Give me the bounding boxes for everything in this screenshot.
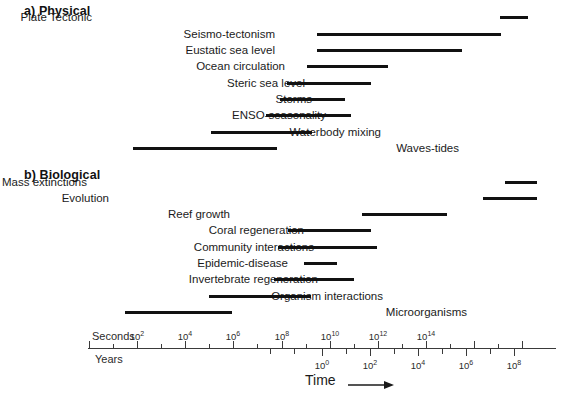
axis-tick-years [270, 349, 271, 354]
axis-tick-seconds [498, 344, 499, 349]
axis-tick-years [490, 349, 491, 354]
axis-tick-seconds [450, 344, 451, 349]
axis-tick-label-seconds: 1012 [369, 328, 387, 342]
axis-tick-seconds [113, 344, 114, 349]
axis-tick-label-years: 104 [411, 357, 425, 371]
axis-tick-years [294, 349, 295, 354]
axis-tick-label-years: 100 [315, 357, 329, 371]
axis-tick-seconds [354, 344, 355, 349]
axis-tick-label-seconds: 106 [226, 328, 240, 342]
axis-tick-years [370, 349, 371, 356]
axis-tick-seconds [522, 341, 523, 348]
axis-tick-years [514, 349, 515, 356]
right-arrow-icon [348, 376, 394, 386]
timescales-figure: a) Physical b) Biological Plate Tectonic… [0, 0, 581, 397]
axis-tick-label-years: 108 [507, 357, 521, 371]
axis-tick-seconds [402, 344, 403, 349]
axis-tick-seconds [306, 344, 307, 349]
axis-tick-seconds [209, 344, 210, 349]
time-axis: 102104106108101010121014100102104106108S… [0, 0, 581, 397]
axis-tick-label-seconds: 108 [275, 328, 289, 342]
axis-tick-seconds [474, 341, 475, 348]
axis-tick-seconds [257, 344, 258, 349]
axis-title-time: Time [305, 372, 336, 388]
axis-unit-seconds: Seconds [92, 330, 135, 342]
axis-tick-years [418, 349, 419, 356]
axis-tick-years [394, 349, 395, 354]
axis-tick-seconds [89, 341, 90, 348]
axis-tick-years [466, 349, 467, 356]
axis-tick-years [346, 349, 347, 354]
axis-tick-years [322, 349, 323, 356]
axis-tick-label-seconds: 1014 [417, 328, 435, 342]
axis-tick-label-years: 106 [459, 357, 473, 371]
axis-tick-label-years: 102 [363, 357, 377, 371]
axis-tick-seconds [161, 344, 162, 349]
axis-tick-label-seconds: 1010 [321, 328, 339, 342]
axis-unit-years: Years [95, 353, 123, 365]
axis-tick-label-seconds: 104 [178, 328, 192, 342]
axis-tick-years [442, 349, 443, 354]
